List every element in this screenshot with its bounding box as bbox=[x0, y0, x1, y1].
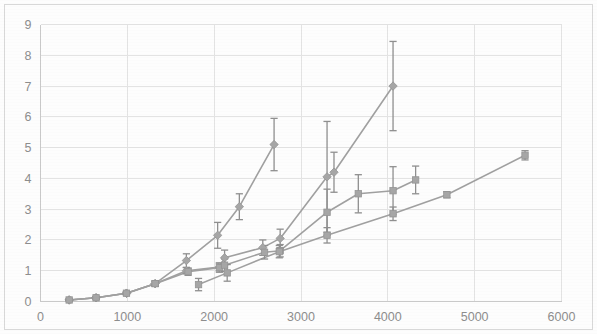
data-point-s4-p4 bbox=[390, 211, 396, 217]
x-tick-label-0: 0 bbox=[37, 310, 44, 324]
y-tick-label-5: 5 bbox=[25, 141, 32, 155]
y-tick-label-8: 8 bbox=[25, 49, 32, 63]
data-point-s4-p6 bbox=[522, 152, 528, 158]
data-point-s3-p11 bbox=[390, 188, 396, 194]
data-point-s3-p1 bbox=[93, 295, 99, 301]
x-tick-label-6000: 6000 bbox=[548, 310, 576, 324]
chart-background bbox=[0, 0, 597, 334]
data-point-s4-p5 bbox=[444, 192, 450, 198]
data-point-s4-p1 bbox=[224, 270, 230, 276]
x-tick-label-3000: 3000 bbox=[287, 310, 315, 324]
y-tick-label-9: 9 bbox=[25, 18, 32, 32]
data-point-s4-p2 bbox=[276, 248, 282, 254]
x-tick-label-5000: 5000 bbox=[461, 310, 489, 324]
x-tick-label-2000: 2000 bbox=[200, 310, 228, 324]
y-tick-label-3: 3 bbox=[25, 203, 32, 217]
data-point-s3-p7 bbox=[261, 249, 267, 255]
data-point-s4-p3 bbox=[324, 232, 330, 238]
scatter-line-chart: 0100020003000400050006000 0123456789 bbox=[0, 0, 597, 334]
data-point-s3-p12 bbox=[412, 177, 418, 183]
data-point-s3-p6 bbox=[221, 262, 227, 268]
data-point-s3-p3 bbox=[152, 280, 158, 286]
data-point-s3-p2 bbox=[123, 290, 129, 296]
y-tick-label-1: 1 bbox=[25, 264, 32, 278]
y-tick-label-0: 0 bbox=[25, 295, 32, 309]
data-point-s4-p0 bbox=[195, 281, 201, 287]
data-point-s3-p4 bbox=[185, 268, 191, 274]
y-tick-label-7: 7 bbox=[25, 80, 32, 94]
data-point-s3-p0 bbox=[66, 297, 72, 303]
data-point-s3-p10 bbox=[355, 191, 361, 197]
data-point-s3-p9 bbox=[324, 209, 330, 215]
x-tick-label-1000: 1000 bbox=[113, 310, 141, 324]
y-tick-label-2: 2 bbox=[25, 233, 32, 247]
y-tick-label-4: 4 bbox=[25, 172, 32, 186]
x-tick-label-4000: 4000 bbox=[374, 310, 402, 324]
y-tick-label-6: 6 bbox=[25, 110, 32, 124]
chart-container: 0100020003000400050006000 0123456789 bbox=[0, 0, 597, 334]
